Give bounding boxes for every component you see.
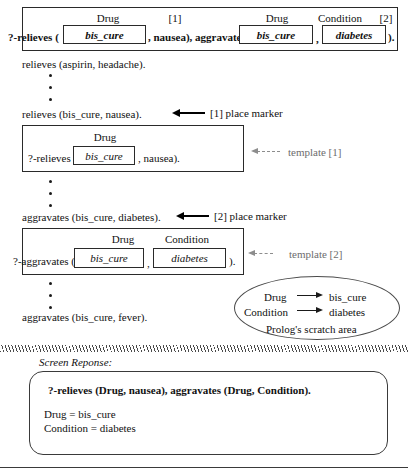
template-1-arrow — [251, 148, 281, 155]
fact-line-biscure-fever: aggravates (bis_cure, fever). — [22, 312, 147, 323]
screen-response-query: ?-relieves (Drug, nausea), aggravates (D… — [48, 385, 311, 396]
scratch-area-caption: Prolog's scratch area — [266, 324, 357, 335]
hatched-divider — [0, 345, 408, 352]
slot-condition-1: diabetes — [322, 25, 386, 44]
screen-response-result-2: Condition = diabetes — [44, 423, 136, 434]
place-marker-label-2: [2] place marker — [214, 211, 287, 222]
place-marker-arrow-1 — [172, 109, 205, 117]
template-2-comma: , — [147, 258, 150, 269]
template-2-prefix: ?-aggravates ( — [13, 256, 75, 267]
fact-line-aspirin-headache: relieves (aspirin, headache). — [22, 59, 145, 70]
ellipsis-dots-1 — [49, 74, 52, 110]
scratch-binding-2-variable: Condition — [244, 307, 288, 318]
template-1-label: template [1] — [288, 147, 341, 158]
scratch-binding-1-arrow — [297, 292, 323, 299]
place-marker-arrow-2 — [176, 212, 209, 220]
marker-label-2: [2] — [373, 13, 399, 24]
header-condition-1: Condition — [305, 13, 375, 24]
screen-response-caption: Screen Reponse: — [39, 357, 112, 368]
bottom-rule — [0, 467, 408, 468]
template-2-suffix: ). — [229, 256, 235, 267]
header-drug-2: Drug — [247, 13, 307, 24]
query-prefix: ?-relieves ( — [8, 32, 59, 43]
template-1-suffix: , nausea). — [138, 153, 180, 164]
template-1-slot-drug: bis_cure — [73, 146, 135, 165]
query-comma: , — [316, 34, 319, 45]
place-marker-label-1: [1] place marker — [210, 108, 283, 119]
template-2-label: template [2] — [289, 249, 342, 260]
query-mid-text: , nausea), aggravates ( — [148, 32, 252, 43]
template-2-slot-condition: diabetes — [153, 248, 226, 268]
template-2-arrow — [248, 250, 274, 257]
header-drug-1: Drug — [78, 13, 138, 24]
template-2-header-condition: Condition — [152, 234, 222, 245]
slot-drug-1: bis_cure — [63, 25, 146, 44]
scratch-binding-2-arrow — [297, 307, 323, 314]
template-2-slot-drug: bis_cure — [74, 248, 144, 268]
slot-drug-2: bis_cure — [239, 25, 313, 44]
scratch-binding-2-value: diabetes — [329, 307, 365, 318]
template-1-header-drug: Drug — [75, 132, 135, 143]
screen-response-result-1: Drug = bis_cure — [44, 409, 116, 420]
marker-label-1: [1] — [155, 13, 195, 24]
fact-line-biscure-diabetes: aggravates (bis_cure, diabetes). — [22, 212, 161, 223]
template-1-prefix: ?-relieves ( — [28, 153, 77, 164]
template-2-header-drug: Drug — [93, 234, 153, 245]
scratch-binding-1-variable: Drug — [264, 292, 287, 303]
query-suffix: ). — [388, 32, 394, 43]
fact-line-biscure-nausea: relieves (bis_cure, nausea). — [22, 109, 142, 120]
scratch-binding-1-value: bis_cure — [329, 292, 366, 303]
